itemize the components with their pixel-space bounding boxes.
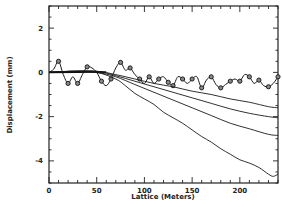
data-marker — [157, 77, 161, 81]
data-marker — [266, 85, 270, 89]
data-marker — [219, 86, 223, 90]
displacement-chart: 050100150200 20-2-4 Lattice (Meters) Dis… — [0, 0, 282, 207]
y-axis-label: Displacement (mm) — [6, 56, 14, 133]
series-layer — [49, 59, 280, 176]
y-tick-label: 0 — [38, 69, 43, 77]
series-line — [49, 71, 278, 135]
data-marker — [209, 75, 213, 79]
data-marker — [180, 77, 184, 81]
data-marker — [128, 66, 132, 70]
data-marker — [200, 86, 204, 90]
y-tick-label: -2 — [35, 113, 43, 121]
data-marker — [257, 78, 261, 82]
y-tick-label: -4 — [35, 157, 43, 165]
data-marker — [166, 80, 170, 84]
data-marker — [56, 59, 60, 63]
plot-frame — [49, 6, 278, 183]
series-line — [49, 71, 278, 118]
y-tick-label: 2 — [38, 25, 43, 33]
series-line — [49, 61, 278, 88]
data-marker — [190, 77, 194, 81]
x-tick-label: 200 — [233, 187, 248, 195]
data-marker — [99, 79, 103, 83]
data-marker — [76, 81, 80, 85]
data-marker — [118, 60, 122, 64]
data-marker — [228, 79, 232, 83]
data-marker — [276, 75, 280, 79]
series-line — [49, 71, 278, 176]
data-marker — [66, 81, 70, 85]
data-marker — [247, 75, 251, 79]
data-marker — [85, 65, 89, 69]
x-axis-ticks: 050100150200 — [47, 6, 278, 195]
data-marker — [238, 79, 242, 83]
y-axis-ticks: 20-2-4 — [35, 6, 278, 183]
data-marker — [147, 75, 151, 79]
x-axis-label: Lattice (Meters) — [131, 193, 194, 201]
x-tick-label: 0 — [47, 187, 52, 195]
x-tick-label: 50 — [92, 187, 102, 195]
